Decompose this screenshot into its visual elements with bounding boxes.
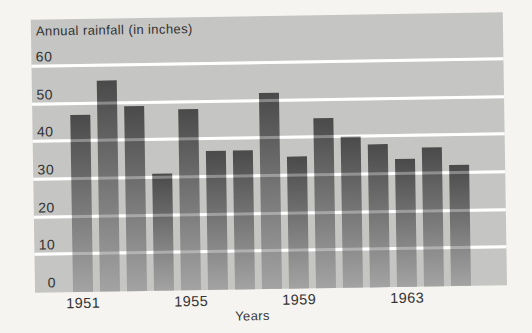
y-tick-label-50: 50 — [34, 87, 53, 101]
x-axis-tick-labels: 1951195519591963 — [0, 0, 529, 4]
x-axis-title: Years — [235, 308, 270, 324]
y-tick-label-60: 60 — [33, 49, 52, 63]
y-tick-label-10: 10 — [36, 238, 55, 252]
rainfall-bar-chart: Annual rainfall (in inches) 605040302010… — [0, 0, 532, 333]
y-tick-label-40: 40 — [34, 125, 53, 139]
x-tick-label-1959: 1959 — [282, 291, 317, 308]
x-tick-label-1955: 1955 — [174, 293, 209, 310]
y-tick-label-30: 30 — [35, 162, 54, 176]
y-axis-labels: 6050403020100 — [31, 12, 507, 292]
x-tick-label-1963: 1963 — [390, 290, 425, 307]
y-tick-label-20: 20 — [36, 200, 55, 214]
x-tick-label-1951: 1951 — [66, 295, 101, 312]
plot-area: Annual rainfall (in inches) 605040302010… — [31, 12, 507, 292]
y-tick-label-0: 0 — [37, 275, 56, 289]
